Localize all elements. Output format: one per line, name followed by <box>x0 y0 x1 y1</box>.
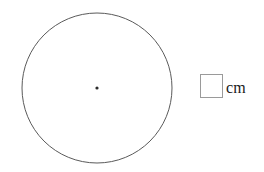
figure-root: cm <box>0 0 264 172</box>
answer-entry-group: cm <box>200 74 246 98</box>
center-dot <box>95 86 98 89</box>
answer-input-box[interactable] <box>200 74 223 98</box>
unit-label-cm: cm <box>226 77 246 96</box>
